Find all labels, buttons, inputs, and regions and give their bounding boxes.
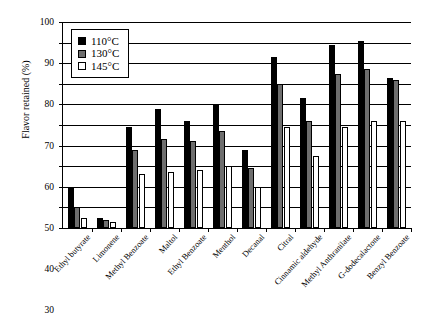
bar bbox=[213, 104, 219, 228]
x-axis-category-label: Ethyl butyrate bbox=[51, 232, 91, 274]
bar bbox=[329, 45, 335, 228]
bar-group bbox=[329, 22, 348, 228]
chart-legend: 110°C130°C145°C bbox=[71, 29, 129, 78]
bar bbox=[358, 41, 364, 228]
bar bbox=[393, 80, 399, 228]
x-axis-tick bbox=[150, 228, 151, 232]
bar bbox=[126, 127, 132, 228]
bar-group bbox=[184, 22, 203, 228]
y-axis-tick: 40 bbox=[59, 146, 63, 147]
x-axis-category-label: Methyl Anthranilate bbox=[299, 232, 353, 289]
bar-group bbox=[213, 22, 232, 228]
bar bbox=[155, 109, 161, 228]
x-axis-tick bbox=[411, 228, 412, 232]
y-axis-tick: 70 bbox=[59, 84, 63, 85]
legend-label: 145°C bbox=[91, 61, 119, 72]
bar bbox=[197, 170, 203, 228]
bar bbox=[255, 187, 261, 228]
bar bbox=[139, 174, 145, 228]
bar bbox=[371, 121, 377, 228]
bar bbox=[184, 121, 190, 228]
bar bbox=[219, 131, 225, 228]
x-axis-tick bbox=[179, 228, 180, 232]
y-axis-tick-label: 50 bbox=[45, 224, 55, 234]
bar bbox=[313, 156, 319, 228]
bar bbox=[161, 139, 167, 228]
bar bbox=[277, 84, 283, 228]
bar bbox=[81, 218, 87, 228]
bar-group bbox=[387, 22, 406, 228]
bar bbox=[168, 172, 174, 228]
legend-swatch-icon bbox=[78, 37, 86, 45]
y-axis-tick: 90 bbox=[59, 43, 63, 44]
bar bbox=[271, 57, 277, 228]
bar bbox=[132, 150, 138, 228]
bar-group bbox=[271, 22, 290, 228]
y-axis-tick: 60 bbox=[59, 104, 63, 105]
x-axis-tick bbox=[295, 228, 296, 232]
bar-group bbox=[155, 22, 174, 228]
bar bbox=[364, 69, 370, 228]
y-axis-tick-label: 100 bbox=[40, 18, 54, 28]
x-axis-tick bbox=[237, 228, 238, 232]
y-axis-tick: 100 bbox=[59, 22, 63, 23]
legend-item: 130°C bbox=[78, 48, 119, 59]
x-axis-category-label: Decanal bbox=[240, 232, 266, 259]
legend-item: 110°C bbox=[78, 36, 119, 47]
bar bbox=[74, 207, 80, 228]
bar bbox=[110, 222, 116, 228]
y-axis-tick-label: 30 bbox=[45, 306, 55, 316]
bar-group bbox=[242, 22, 261, 228]
bar bbox=[103, 220, 109, 228]
bar bbox=[335, 74, 341, 229]
x-axis-category-label: Maltol bbox=[156, 232, 179, 255]
bar bbox=[342, 127, 348, 228]
bar bbox=[248, 168, 254, 228]
y-axis-tick: 30 bbox=[59, 166, 63, 167]
flavor-retention-bar-chart: Flavor retained (%) 01020304050607080901… bbox=[0, 0, 432, 320]
bar bbox=[97, 218, 103, 228]
y-axis-tick: 20 bbox=[59, 187, 63, 188]
y-axis-tick: 50 bbox=[59, 125, 63, 126]
bar-group bbox=[358, 22, 377, 228]
x-axis-tick bbox=[208, 228, 209, 232]
legend-item: 145°C bbox=[78, 61, 119, 72]
bar-group bbox=[300, 22, 319, 228]
bar bbox=[400, 121, 406, 228]
legend-swatch-icon bbox=[78, 50, 86, 58]
y-axis-tick-label: 80 bbox=[45, 100, 55, 110]
legend-swatch-icon bbox=[78, 62, 86, 70]
bar bbox=[226, 166, 232, 228]
x-axis-tick bbox=[324, 228, 325, 232]
bar bbox=[284, 127, 290, 228]
y-axis-tick: 0 bbox=[59, 228, 63, 229]
x-axis-category-label: Citral bbox=[274, 232, 295, 253]
y-axis-tick-label: 70 bbox=[45, 142, 55, 152]
bar bbox=[242, 150, 248, 228]
bar bbox=[387, 78, 393, 228]
bar bbox=[68, 187, 74, 228]
legend-label: 110°C bbox=[91, 36, 119, 47]
y-axis-tick-label: 90 bbox=[45, 59, 55, 69]
y-axis-title: Flavor retained (%) bbox=[20, 15, 31, 185]
x-axis-tick bbox=[121, 228, 122, 232]
x-axis-tick bbox=[353, 228, 354, 232]
y-axis-tick: 80 bbox=[59, 63, 63, 64]
bar bbox=[190, 141, 196, 228]
x-axis-tick bbox=[92, 228, 93, 232]
y-axis-tick: 10 bbox=[59, 207, 63, 208]
bar bbox=[306, 121, 312, 228]
x-axis-tick bbox=[266, 228, 267, 232]
x-axis-category-label: Menthol bbox=[210, 232, 237, 260]
y-axis-tick-label: 60 bbox=[45, 183, 55, 193]
x-axis-tick bbox=[382, 228, 383, 232]
legend-label: 130°C bbox=[91, 48, 119, 59]
bar bbox=[300, 98, 306, 228]
